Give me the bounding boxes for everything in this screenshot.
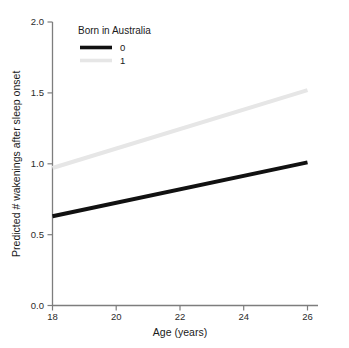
legend-label-0: 0 xyxy=(120,42,125,53)
y-axis-title: Predicted # wakenings after sleep onset xyxy=(10,71,22,257)
chart-figure: 0.0 0.5 1.0 1.5 2.0 18 20 22 24 26 Age (… xyxy=(0,0,349,348)
x-tick-label-2: 22 xyxy=(175,311,186,322)
y-tick-label-0: 0.0 xyxy=(31,300,44,311)
legend-title: Born in Australia xyxy=(78,25,151,36)
line-chart: 0.0 0.5 1.0 1.5 2.0 18 20 22 24 26 Age (… xyxy=(0,0,349,348)
y-tick-label-2: 1.0 xyxy=(31,158,44,169)
x-tick-label-1: 20 xyxy=(111,311,122,322)
y-tick-label-3: 1.5 xyxy=(31,87,44,98)
y-tick-label-1: 0.5 xyxy=(31,229,44,240)
y-tick-label-4: 2.0 xyxy=(31,16,44,27)
x-tick-label-3: 24 xyxy=(238,311,249,322)
x-tick-label-0: 18 xyxy=(47,311,58,322)
legend-label-1: 1 xyxy=(120,55,125,66)
x-axis-title: Age (years) xyxy=(153,326,207,338)
x-tick-label-4: 26 xyxy=(302,311,313,322)
